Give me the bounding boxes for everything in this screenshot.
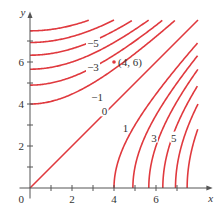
curve-label: 1 bbox=[123, 122, 129, 134]
point-label: (4, 6) bbox=[118, 56, 142, 69]
level-curve-5 bbox=[175, 104, 198, 188]
level-curve-neg4 bbox=[30, 21, 132, 56]
y-tick-label: 4 bbox=[19, 98, 25, 110]
origin-label: 0 bbox=[19, 193, 25, 205]
x-tick-label: 4 bbox=[111, 193, 117, 205]
level-curves bbox=[30, 20, 198, 188]
curve-label: −1 bbox=[91, 91, 103, 103]
y-axis-arrow-icon bbox=[28, 12, 33, 18]
level-curve-neg6 bbox=[30, 20, 89, 31]
y-tick-label: 6 bbox=[19, 56, 25, 68]
curve-label: −5 bbox=[87, 37, 99, 49]
curve-label: −3 bbox=[87, 61, 99, 73]
contour-chart: 2462460xy −5−3−10135 (4, 6) bbox=[0, 0, 214, 215]
x-tick-label: 2 bbox=[69, 193, 75, 205]
level-curve-6 bbox=[187, 129, 198, 188]
level-curve-4 bbox=[163, 86, 198, 188]
point-marker bbox=[112, 60, 116, 64]
x-axis-label: x bbox=[207, 192, 213, 204]
level-curve-neg5 bbox=[30, 20, 114, 43]
y-tick-label: 2 bbox=[19, 140, 25, 152]
curve-label: 0 bbox=[102, 105, 108, 117]
y-axis-label: y bbox=[20, 6, 26, 18]
x-axis-arrow-icon bbox=[206, 186, 212, 191]
curve-label: 5 bbox=[171, 132, 177, 144]
x-tick-label: 6 bbox=[153, 193, 159, 205]
level-curve-0 bbox=[30, 20, 198, 188]
curve-label: 3 bbox=[151, 132, 157, 144]
axes: 2462460xy bbox=[19, 6, 214, 205]
